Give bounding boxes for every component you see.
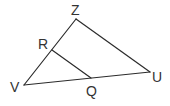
triangle-diagram: Z V U R Q (0, 0, 170, 106)
segment-rq (52, 50, 91, 78)
label-v: V (10, 79, 20, 95)
label-r: R (38, 36, 48, 52)
label-q: Q (86, 83, 97, 99)
segment-zu (76, 19, 150, 72)
label-u: U (152, 69, 162, 85)
label-z: Z (71, 2, 80, 18)
segment-zv (24, 19, 76, 85)
